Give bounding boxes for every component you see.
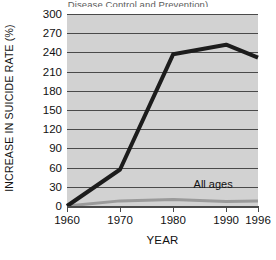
x-axis-tick — [120, 206, 121, 212]
x-axis-tick-label: 1990 — [213, 214, 239, 226]
y-axis-tick-label: 180 — [43, 85, 62, 97]
x-axis-line — [67, 206, 258, 208]
y-axis-tick-label: 0 — [56, 200, 62, 212]
y-axis-tick-label: 240 — [43, 46, 62, 58]
y-axis-tick-label: 90 — [49, 142, 62, 154]
y-axis-tick-label: 300 — [43, 8, 62, 20]
x-axis-tick-label: 1960 — [54, 214, 80, 226]
y-axis-tick-label: 120 — [43, 123, 62, 135]
y-axis-title-text: INCREASE IN SUICIDE RATE (%) — [3, 24, 15, 192]
x-axis-title: YEAR — [67, 234, 258, 246]
x-axis-tick — [173, 206, 174, 212]
y-axis-tick-label: 30 — [49, 181, 62, 193]
source-caption: Disease Control and Prevention) — [0, 0, 276, 7]
x-axis-tick — [67, 206, 68, 212]
y-axis-tick-label: 210 — [43, 66, 62, 78]
y-axis-tick-label: 60 — [49, 162, 62, 174]
y-axis-tick-label: 150 — [43, 104, 62, 116]
x-axis-tick-label: 1980 — [160, 214, 186, 226]
x-axis-tick — [258, 206, 259, 212]
y-axis-tick-label: 270 — [43, 27, 62, 39]
x-axis-tick-label: 1996 — [245, 214, 271, 226]
x-axis-tick-label: 1970 — [107, 214, 133, 226]
series-annotation-all-ages: All ages — [194, 178, 233, 190]
source-caption-text: Disease Control and Prevention) — [68, 0, 208, 7]
plot-area: All ages — [67, 14, 258, 206]
y-axis-tick-labels: 0306090120150180210240270300 — [19, 14, 65, 206]
x-axis-tick — [226, 206, 227, 212]
y-axis-title: INCREASE IN SUICIDE RATE (%) — [0, 0, 18, 216]
